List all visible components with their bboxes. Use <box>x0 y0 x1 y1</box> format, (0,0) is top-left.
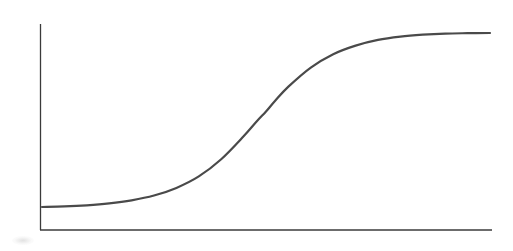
chart-background <box>0 0 513 251</box>
figure-container <box>0 0 513 251</box>
sigmoid-chart <box>0 0 513 251</box>
